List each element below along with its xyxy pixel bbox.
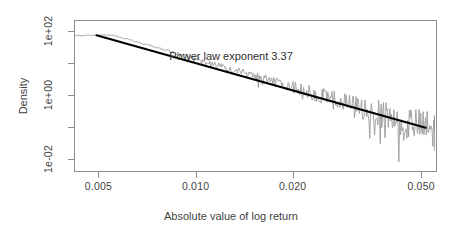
y-tick-mark (68, 159, 74, 160)
plot-area (74, 20, 437, 172)
x-tick-mark (98, 172, 99, 178)
x-tick-label: 0.020 (279, 180, 306, 192)
y-minor-tick-mark (68, 63, 74, 64)
power-law-exponent-annotation: Power law exponent 3.37 (169, 50, 293, 62)
plot-canvas (75, 21, 436, 171)
x-tick-mark (421, 172, 422, 178)
y-tick-mark (68, 31, 74, 32)
y-tick-label: 1e-02 (42, 145, 54, 173)
x-tick-mark (293, 172, 294, 178)
x-axis-title: Absolute value of log return (0, 210, 462, 222)
y-tick-label: 1e+02 (42, 16, 54, 47)
y-tick-label: 1e+00 (42, 80, 54, 111)
x-tick-label: 0.005 (85, 180, 112, 192)
y-minor-tick-mark (68, 127, 74, 128)
y-axis-title: Density (17, 78, 29, 115)
x-tick-mark (196, 172, 197, 178)
density-power-law-chart: Power law exponent 3.37 0.0050.0100.0200… (0, 0, 462, 240)
x-tick-label: 0.050 (407, 180, 434, 192)
y-tick-mark (68, 95, 74, 96)
x-tick-label: 0.010 (182, 180, 209, 192)
